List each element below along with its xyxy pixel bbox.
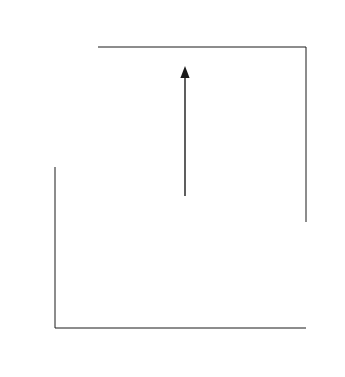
linking-arrow (180, 66, 189, 196)
bottom-panel (55, 167, 306, 328)
chart-figure (0, 0, 345, 377)
top-panel (98, 47, 306, 222)
dual-distribution-plot (0, 0, 345, 377)
arrow-head (180, 66, 189, 78)
